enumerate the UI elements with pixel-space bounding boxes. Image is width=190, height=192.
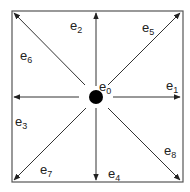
vector-label-e1: e1 <box>166 78 178 95</box>
vector-label-e6: e6 <box>20 48 32 65</box>
vector-label-e5: e5 <box>142 20 154 37</box>
vector-label-e8: e8 <box>164 143 176 160</box>
vector-label-e2: e2 <box>70 18 82 35</box>
vector-label-e7: e7 <box>40 162 52 179</box>
vector-label-e4: e4 <box>108 166 120 183</box>
center-label: e0 <box>99 79 111 96</box>
lattice-diagram: e0 e1e2e3e4e5e6e7e8 <box>0 0 190 192</box>
vector-label-e3: e3 <box>15 114 27 131</box>
